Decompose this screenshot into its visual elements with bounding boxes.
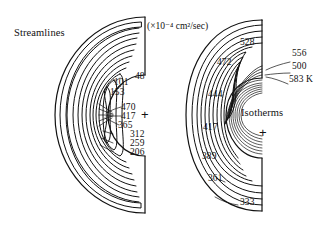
right-leader-556 (266, 62, 290, 70)
isotherms-title: Isotherms (241, 108, 283, 119)
streamlines-title: Streamlines (14, 28, 65, 39)
right-label-389: 389 (202, 152, 217, 162)
right-label-472: 472 (217, 58, 232, 68)
right-label-500: 500 (292, 62, 307, 72)
left-label-48: 48 (135, 72, 145, 82)
right-label-556: 556 (292, 49, 307, 59)
left-label-206: 206 (130, 148, 145, 158)
units-text: (×10⁻⁴ cm²/sec) (147, 21, 208, 31)
right-label-528: 528 (240, 38, 255, 48)
right-label-333: 333 (240, 198, 255, 208)
right-label-361: 361 (208, 174, 223, 184)
right-center-marker: + (259, 126, 267, 139)
right-leader-583 (266, 77, 288, 84)
left-label-153: 153 (110, 88, 125, 98)
right-leader-500 (265, 73, 290, 75)
right-label-417: 417 (203, 123, 218, 133)
units-annotation: (×10⁻⁴ cm²/sec) (147, 20, 208, 31)
left-center-marker: + (141, 108, 149, 121)
right-label-444: 444 (208, 90, 223, 100)
figure-contour-plots: Streamlines (×10⁻⁴ cm²/sec) 48 101 153 4… (0, 0, 324, 243)
right-label-583: 583 K (289, 75, 313, 85)
